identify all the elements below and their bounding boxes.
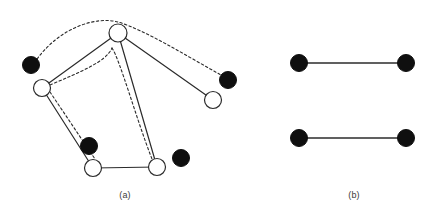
node-open-a5[interactable] xyxy=(205,92,222,109)
dashed-edge-inner-arc-upper xyxy=(50,48,112,85)
solid-edge-a2-a7 xyxy=(42,88,93,168)
panel-a-solid-edges xyxy=(42,33,213,168)
node-open-a7[interactable] xyxy=(85,160,102,177)
panel-b-solid-edges xyxy=(299,63,406,138)
panel-a-nodes xyxy=(23,24,237,177)
dashed-edge-outer-arc xyxy=(37,21,221,75)
node-open-a3[interactable] xyxy=(109,24,127,42)
graph-diagram-canvas xyxy=(0,0,434,214)
node-open-a2[interactable] xyxy=(34,80,51,97)
panel-b-group xyxy=(291,55,415,147)
panel-b-caption: (b) xyxy=(324,190,384,200)
panel-a-caption: (a) xyxy=(95,190,155,200)
solid-edge-a7-a8 xyxy=(93,167,157,168)
node-filled-b4[interactable] xyxy=(398,130,415,147)
panel-a-group xyxy=(23,21,237,177)
node-filled-a6[interactable] xyxy=(81,138,98,155)
node-filled-a4[interactable] xyxy=(220,72,237,89)
node-open-a8[interactable] xyxy=(149,159,166,176)
dashed-edge-inner-arc-lower xyxy=(112,48,152,159)
figure-root: (a) (b) xyxy=(0,0,434,214)
node-filled-a9[interactable] xyxy=(173,150,190,167)
node-filled-b2[interactable] xyxy=(398,55,415,72)
solid-edge-a3-a8 xyxy=(118,33,157,167)
node-filled-b1[interactable] xyxy=(291,55,308,72)
panel-b-nodes xyxy=(291,55,415,147)
node-filled-a1[interactable] xyxy=(23,57,40,74)
node-filled-b3[interactable] xyxy=(291,130,308,147)
